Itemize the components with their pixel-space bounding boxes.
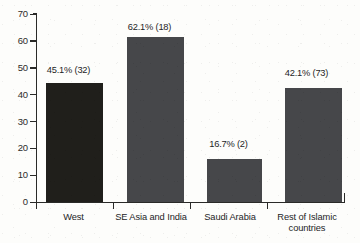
- bar-chart-figure: 70 60 50 40 30 20 10 0 45.1% (32: [0, 0, 360, 243]
- value-label-se-asia-and-india: 62.1% (18): [97, 23, 202, 32]
- plot-area: [36, 14, 345, 202]
- bar-west-fill: [46, 83, 103, 203]
- y-tick-label-30: 30: [2, 117, 28, 127]
- bar-se-asia-and-india[interactable]: [127, 37, 184, 202]
- bar-rest-of-islamic-countries[interactable]: [285, 88, 342, 202]
- x-tick-0: [36, 202, 37, 209]
- category-label-rest-of-islamic-countries-line2: countries: [254, 223, 360, 234]
- bar-saudi-arabia-fill: [207, 159, 262, 202]
- y-tick-label-60: 60: [2, 36, 28, 46]
- y-tick-label-40: 40: [2, 90, 28, 100]
- bar-saudi-arabia[interactable]: [207, 159, 262, 202]
- value-label-rest-of-islamic-countries: 42.1% (73): [254, 69, 359, 78]
- y-tick-label-0: 0: [2, 197, 28, 207]
- x-tick-1: [113, 202, 114, 209]
- y-tick-label-70: 70: [2, 9, 28, 19]
- x-tick-2: [190, 202, 191, 209]
- y-tick-label-20: 20: [2, 143, 28, 153]
- bar-se-asia-and-india-fill: [127, 37, 184, 202]
- category-label-rest-of-islamic-countries-line1: Rest of Islamic: [254, 212, 360, 223]
- value-label-west: 45.1% (32): [16, 66, 121, 75]
- bar-rest-of-islamic-countries-fill: [285, 88, 342, 202]
- y-tick-label-10: 10: [2, 170, 28, 180]
- bar-west[interactable]: [46, 83, 103, 203]
- value-label-saudi-arabia: 16.7% (2): [176, 140, 281, 149]
- x-tick-3: [267, 202, 268, 209]
- category-label-rest-of-islamic-countries: Rest of Islamic countries: [254, 212, 360, 234]
